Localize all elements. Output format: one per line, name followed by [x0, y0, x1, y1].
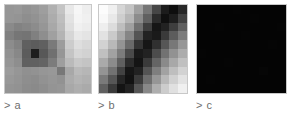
heatmap-cell: [215, 14, 224, 23]
heatmap-cell: [65, 40, 74, 49]
heatmap-cell: [125, 75, 134, 84]
heatmap-cell: [206, 40, 215, 49]
heatmap-cell: [215, 75, 224, 84]
heatmap-cell: [152, 14, 161, 23]
heatmap-cell: [277, 49, 286, 58]
heatmap-cell: [99, 5, 108, 14]
heatmap-cell: [241, 84, 250, 93]
heatmap-cell: [197, 58, 206, 67]
heatmap-panel-b[interactable]: [98, 4, 188, 94]
heatmap-cell: [268, 75, 277, 84]
heatmap-cell: [215, 23, 224, 32]
heatmap-cell: [143, 49, 152, 58]
heatmap-cell: [233, 23, 242, 32]
heatmap-cell: [22, 5, 31, 14]
heatmap-cell: [259, 75, 268, 84]
heatmap-cell: [5, 67, 14, 76]
heatmap-cell: [14, 49, 23, 58]
heatmap-cell: [65, 49, 74, 58]
heatmap-cell: [224, 14, 233, 23]
heatmap-cell: [134, 84, 143, 93]
heatmap-cell: [259, 5, 268, 14]
heatmap-cell: [169, 49, 178, 58]
heatmap-cell: [57, 23, 66, 32]
heatmap-cell: [169, 40, 178, 49]
heatmap-cell: [82, 5, 91, 14]
heatmap-cell: [268, 40, 277, 49]
heatmap-cell: [31, 84, 40, 93]
heatmap-cell: [143, 67, 152, 76]
heatmap-cell: [48, 23, 57, 32]
heatmap-cell: [57, 67, 66, 76]
heatmap-cell: [22, 75, 31, 84]
heatmap-cell: [277, 40, 286, 49]
heatmap-cell: [134, 40, 143, 49]
heatmap-cell: [143, 31, 152, 40]
heatmap-cell: [215, 58, 224, 67]
heatmap-cell: [5, 14, 14, 23]
heatmap-cell: [31, 31, 40, 40]
heatmap-cell: [125, 67, 134, 76]
heatmap-cell: [134, 14, 143, 23]
heatmap-cell: [82, 14, 91, 23]
heatmap-cell: [99, 40, 108, 49]
heatmap-cell: [74, 14, 83, 23]
heatmap-cell: [134, 75, 143, 84]
heatmap-cell: [14, 23, 23, 32]
heatmap-panel-a[interactable]: [4, 4, 92, 94]
heatmap-cell: [197, 31, 206, 40]
heatmap-cell: [108, 67, 117, 76]
heatmap-cell: [241, 23, 250, 32]
heatmap-cell: [152, 58, 161, 67]
heatmap-cell: [125, 31, 134, 40]
heatmap-cell: [108, 58, 117, 67]
heatmap-cell: [215, 49, 224, 58]
heatmap-cell: [14, 14, 23, 23]
heatmap-cell: [169, 23, 178, 32]
heatmap-cell: [224, 5, 233, 14]
heatmap-cell: [224, 23, 233, 32]
heatmap-cell: [233, 14, 242, 23]
heatmap-cell: [161, 49, 170, 58]
heatmap-cell: [99, 67, 108, 76]
heatmap-cell: [241, 75, 250, 84]
heatmap-cell: [108, 14, 117, 23]
heatmap-cell: [178, 67, 187, 76]
heatmap-cell: [134, 58, 143, 67]
heatmap-cell: [250, 5, 259, 14]
heatmap-cell: [74, 5, 83, 14]
heatmap-cell: [152, 5, 161, 14]
heatmap-cell: [161, 58, 170, 67]
heatmap-cell: [82, 75, 91, 84]
heatmap-cell: [99, 31, 108, 40]
heatmap-panel-c[interactable]: [196, 4, 287, 94]
heatmap-cell: [108, 23, 117, 32]
heatmap-cell: [5, 23, 14, 32]
heatmap-cell: [48, 49, 57, 58]
heatmap-cell: [99, 84, 108, 93]
heatmap-cell: [197, 23, 206, 32]
heatmap-cell: [161, 5, 170, 14]
heatmap-cell: [259, 14, 268, 23]
heatmap-cell: [259, 49, 268, 58]
heatmap-cell: [14, 40, 23, 49]
heatmap-cell: [259, 58, 268, 67]
heatmap-cell: [31, 75, 40, 84]
heatmap-cell: [74, 23, 83, 32]
heatmap-cell: [169, 31, 178, 40]
heatmap-cell: [22, 14, 31, 23]
heatmap-cell: [197, 67, 206, 76]
heatmap-cell: [74, 31, 83, 40]
heatmap-cell: [31, 23, 40, 32]
heatmap-cell: [233, 40, 242, 49]
heatmap-cell: [268, 14, 277, 23]
heatmap-cell: [48, 84, 57, 93]
heatmap-cell: [233, 5, 242, 14]
heatmap-cell: [57, 31, 66, 40]
heatmap-cell: [152, 49, 161, 58]
heatmap-cell: [39, 49, 48, 58]
heatmap-cell: [233, 67, 242, 76]
heatmap-cell: [22, 23, 31, 32]
heatmap-cell: [31, 5, 40, 14]
heatmap-cell: [108, 49, 117, 58]
